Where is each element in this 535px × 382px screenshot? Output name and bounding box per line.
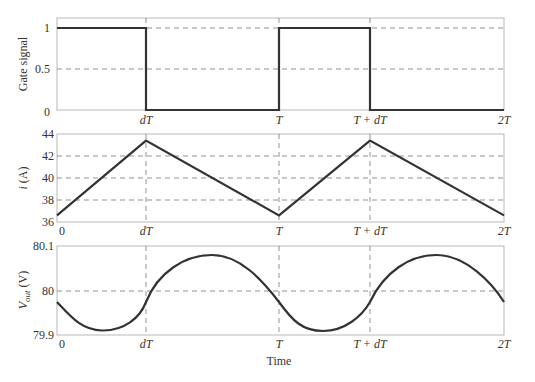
gate-ytick-05: 0.5 bbox=[35, 62, 50, 76]
vout-ytick-80: 80 bbox=[42, 284, 54, 298]
gate-ylabel: Gate signal bbox=[16, 36, 30, 91]
vout-ytick-799: 79.9 bbox=[33, 328, 54, 342]
current-ytick-40: 40 bbox=[42, 171, 54, 185]
vout-xtick-dT: dT bbox=[140, 337, 154, 351]
current-xtick-0: 0 bbox=[59, 224, 65, 238]
current-ylabel: i (A) bbox=[16, 166, 30, 189]
current-xtick-T: T bbox=[276, 224, 284, 238]
vout-xtick-2T: 2T bbox=[498, 337, 512, 351]
current-ytick-42: 42 bbox=[42, 149, 54, 163]
vout-xtick-T: T bbox=[276, 337, 284, 351]
vout-trace bbox=[57, 255, 504, 331]
vout-xtick-0: 0 bbox=[59, 337, 65, 351]
vout-ytick-801: 80.1 bbox=[33, 239, 54, 253]
gate-xtick-T: T bbox=[276, 113, 284, 127]
current-xtick-dT: dT bbox=[140, 224, 154, 238]
gate-xtick-2T: 2T bbox=[498, 113, 512, 127]
gate-ytick-1: 1 bbox=[44, 21, 50, 35]
gate-plot-frame bbox=[57, 18, 504, 110]
current-ytick-38: 38 bbox=[42, 193, 54, 207]
figure: 1 0.5 0 dT T T + dT 2T Gate signal 44 42… bbox=[0, 0, 535, 382]
current-xtick-2T: 2T bbox=[498, 224, 512, 238]
current-xtick-TdT: T + dT bbox=[353, 224, 388, 238]
gate-ytick-0: 0 bbox=[44, 105, 50, 119]
vout-plot-frame bbox=[57, 246, 504, 335]
vout-ylabel: Vout (V) bbox=[16, 271, 32, 310]
vout-xtick-TdT: T + dT bbox=[353, 337, 388, 351]
gate-signal-panel: 1 0.5 0 dT T T + dT 2T Gate signal bbox=[16, 18, 512, 127]
vout-panel: 80.1 80 79.9 0 dT T T + dT 2T Vout (V) T… bbox=[16, 239, 512, 368]
current-ytick-36: 36 bbox=[42, 215, 54, 229]
gate-xtick-TdT: T + dT bbox=[353, 113, 388, 127]
x-axis-label: Time bbox=[267, 354, 292, 368]
current-panel: 44 42 40 38 36 0 dT T T + dT 2T i (A) bbox=[16, 127, 512, 238]
current-ytick-44: 44 bbox=[42, 127, 54, 141]
gate-xtick-dT: dT bbox=[140, 113, 154, 127]
